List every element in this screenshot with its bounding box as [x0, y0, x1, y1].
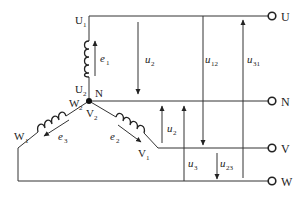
svg-text:1: 1	[146, 154, 150, 162]
label-u31: u 31	[247, 53, 261, 68]
label-u23: u 23	[220, 157, 234, 172]
label-v2: V 2	[86, 107, 98, 122]
label-e2: e 2	[110, 130, 120, 145]
label-w1: W 1	[14, 130, 29, 145]
label-u12: u 12	[205, 53, 219, 68]
svg-text:3: 3	[194, 164, 198, 172]
neutral-node	[86, 98, 92, 104]
svg-text:2: 2	[116, 137, 120, 145]
svg-text:31: 31	[253, 60, 261, 68]
svg-text:U: U	[75, 83, 83, 95]
terminal-w[interactable]	[268, 177, 276, 185]
star-connection-diagram: U N V W U 1 U 2 N W 2 V 2 W 1 V 1 e 1 e …	[0, 0, 300, 203]
label-u1: U 1	[75, 14, 87, 29]
emf-arrow-e3	[44, 120, 69, 136]
label-u-mid: u 2	[167, 122, 177, 137]
svg-text:W: W	[14, 130, 25, 142]
coil-v-icon	[116, 113, 144, 133]
svg-text:2: 2	[79, 104, 83, 112]
coil-w-icon	[38, 112, 66, 132]
svg-text:V: V	[138, 147, 146, 159]
svg-text:23: 23	[226, 164, 234, 172]
label-e1: e 1	[100, 52, 110, 67]
label-v1: V 1	[138, 147, 150, 162]
terminal-w-label: W	[281, 175, 293, 189]
coil-u-icon	[85, 41, 90, 77]
svg-text:2: 2	[173, 129, 177, 137]
terminal-v-label: V	[281, 142, 290, 156]
label-u2: U 2	[75, 83, 87, 98]
terminal-v[interactable]	[268, 144, 276, 152]
svg-text:1: 1	[25, 137, 29, 145]
terminal-n-label: N	[281, 95, 290, 109]
terminal-u[interactable]	[268, 12, 276, 20]
label-n-node: N	[95, 87, 103, 99]
svg-text:e: e	[100, 52, 105, 64]
svg-text:1: 1	[106, 59, 110, 67]
svg-text:2: 2	[83, 90, 87, 98]
wire-v1	[144, 133, 158, 148]
svg-text:2: 2	[151, 60, 155, 68]
svg-text:V: V	[86, 107, 94, 119]
svg-text:2: 2	[94, 114, 98, 122]
label-u-top: u 2	[145, 53, 155, 68]
svg-text:12: 12	[211, 60, 219, 68]
label-u3: u 3	[188, 157, 198, 172]
svg-text:1: 1	[83, 21, 87, 29]
label-e3: e 3	[58, 130, 68, 145]
svg-text:3: 3	[64, 137, 68, 145]
svg-text:e: e	[58, 130, 63, 142]
svg-text:e: e	[110, 130, 115, 142]
svg-text:U: U	[75, 14, 83, 26]
terminal-n[interactable]	[268, 97, 276, 105]
terminal-u-label: U	[281, 10, 290, 24]
